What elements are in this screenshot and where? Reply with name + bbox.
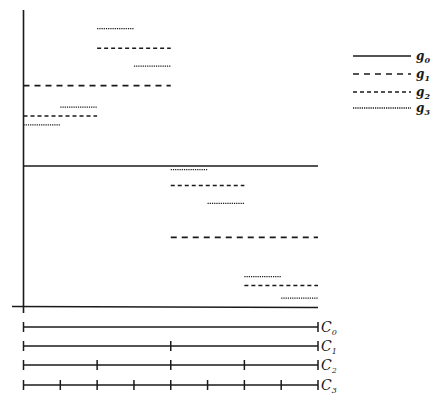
partition-label-c3: C3 <box>321 377 337 395</box>
legend-label-g3: g3 <box>416 101 430 117</box>
legend: g0g1g2g3 <box>353 49 430 117</box>
legend-label-g1: g1 <box>416 67 430 83</box>
partition-label-c0: C0 <box>321 319 337 337</box>
step-function-diagram: g0g1g2g3 C0C1C2C3 <box>0 0 440 406</box>
x-axis <box>12 307 318 308</box>
partition-label-c2: C2 <box>321 357 337 375</box>
partitions: C0C1C2C3 <box>24 319 337 395</box>
legend-label-g2: g2 <box>416 85 430 101</box>
partition-label-c1: C1 <box>321 338 337 356</box>
plot-segments <box>24 29 319 299</box>
legend-label-g0: g0 <box>416 49 430 65</box>
